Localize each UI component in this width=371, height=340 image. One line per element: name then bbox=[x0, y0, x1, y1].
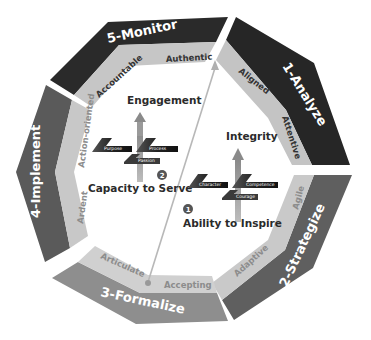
cycle-start-dot bbox=[145, 280, 151, 286]
svg-text:Courage: Courage bbox=[236, 194, 255, 199]
title-capacity-to-serve: Capacity to Serve bbox=[88, 182, 192, 194]
link-purpose: Purpose bbox=[92, 138, 132, 152]
svg-text:1: 1 bbox=[186, 206, 191, 214]
segment-implement-label: 4-Implement bbox=[28, 125, 43, 218]
group-capacity-to-serve: Engagement Purpose Process Passion 2 Cap… bbox=[88, 94, 201, 194]
svg-text:Passion: Passion bbox=[138, 158, 155, 163]
inner-word-accepting: Accepting bbox=[164, 280, 212, 290]
svg-text:2: 2 bbox=[160, 172, 165, 180]
inner-word-authentic: Authentic bbox=[166, 52, 213, 64]
goal-integrity: Integrity bbox=[226, 130, 278, 142]
svg-text:Purpose: Purpose bbox=[104, 146, 122, 151]
svg-text:Process: Process bbox=[149, 146, 167, 151]
link-character: Character bbox=[188, 174, 228, 188]
number-badge-1: 1 bbox=[183, 204, 193, 214]
goal-engagement: Engagement bbox=[127, 94, 201, 106]
group-ability-to-inspire: Integrity Character Competence Courage 1… bbox=[183, 130, 282, 229]
number-badge-2: 2 bbox=[157, 170, 167, 180]
segment-analyze bbox=[216, 17, 350, 165]
svg-text:Competence: Competence bbox=[246, 182, 275, 187]
title-ability-to-inspire: Ability to Inspire bbox=[183, 217, 282, 229]
leadership-cycle-diagram: 5-Monitor 1-Analyze 2-Strategize 3-Forma… bbox=[0, 0, 371, 340]
svg-text:Character: Character bbox=[199, 182, 221, 187]
